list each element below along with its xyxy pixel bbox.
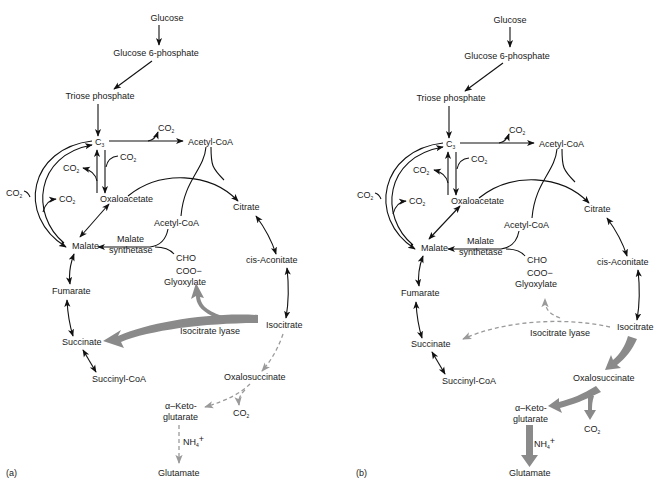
node-c3: C3 <box>446 139 456 150</box>
panel-b: Glucose Glucose 6-phosphate Triose phosp… <box>356 15 654 478</box>
dashed-arrow-co2 <box>239 390 245 405</box>
node-alpha-keto-1: α–Keto- <box>165 401 197 411</box>
node-coo: COO− <box>527 268 553 278</box>
node-co2: CO2 <box>509 125 526 136</box>
node-succinyl-coa: Succinyl-CoA <box>442 376 496 386</box>
arrow-citrate-cisaconitate <box>256 216 276 254</box>
arrow-co2-out-inner <box>393 201 406 214</box>
node-triose-phosphate: Triose phosphate <box>416 93 485 103</box>
arrow-g6p-triose <box>465 63 503 91</box>
co2-in-outer <box>375 193 381 199</box>
node-citrate: Citrate <box>233 202 260 212</box>
node-cis-aconitate: cis-Aconitate <box>246 255 298 265</box>
panel-label-b: (b) <box>356 468 367 478</box>
node-co2: CO2 <box>471 154 488 165</box>
node-succinyl-coa: Succinyl-CoA <box>92 374 146 384</box>
dashed-arrow-isocitrate-glyoxylate <box>545 299 560 318</box>
arrow-cisaconitate-isocitrate <box>637 270 639 320</box>
arrow-co2-out <box>434 170 448 183</box>
node-malate: Malate <box>421 243 448 253</box>
node-cho: CHO <box>527 255 547 265</box>
node-c3: C3 <box>95 137 105 148</box>
node-glyoxylate: Glyoxylate <box>515 279 557 289</box>
node-co2: CO2 <box>409 196 426 207</box>
node-alpha-keto-2: glutarate <box>513 414 548 424</box>
dashed-arrow-oxalosuccinate-aketo <box>205 384 250 407</box>
node-co2: CO2 <box>584 424 601 435</box>
arrow-citrate-cisaconitate <box>607 218 627 256</box>
node-glyoxylate: Glyoxylate <box>164 277 206 287</box>
node-isocitrate: Isocitrate <box>617 322 654 332</box>
line-acetylcoa-down <box>181 147 206 216</box>
label-isocitrate-lyase: Isocitrate lyase <box>180 326 240 336</box>
node-fumarate: Fumarate <box>401 288 440 298</box>
node-glucose: Glucose <box>493 15 526 25</box>
node-succinate: Succinate <box>411 339 451 349</box>
label-isocitrate-lyase: Isocitrate lyase <box>530 328 590 338</box>
node-citrate: Citrate <box>584 204 611 214</box>
node-fumarate: Fumarate <box>52 286 91 296</box>
arrow-malate-oaa <box>429 206 460 239</box>
arrow-co2-release <box>499 134 509 143</box>
arrow-malate-fumarate <box>70 254 75 284</box>
node-co2: CO2 <box>233 408 250 419</box>
co2-in-outer <box>24 191 30 197</box>
thick-arrow-isocitrate-oxalosuccinate <box>605 336 637 370</box>
node-co2: CO2 <box>59 194 76 205</box>
node-malate: Malate <box>72 241 99 251</box>
thick-arrow-isocitrate-glyoxylate <box>191 283 222 316</box>
dashed-arrow-isocitrate-oxalosuccinate <box>262 334 283 371</box>
node-acetyl-coa-mid: Acetyl-CoA <box>504 220 549 230</box>
node-acetyl-coa-top: Acetyl-CoA <box>188 137 233 147</box>
line-glyoxylate-merge <box>506 249 525 256</box>
arrow-cisaconitate-isocitrate <box>286 268 288 318</box>
node-glucose: Glucose <box>150 13 183 23</box>
node-glutamate: Glutamate <box>509 468 551 478</box>
node-co2: CO2 <box>413 165 430 176</box>
node-co2: CO2 <box>357 190 374 201</box>
arrow-g6p-triose <box>114 61 152 89</box>
node-acetyl-coa-top: Acetyl-CoA <box>539 139 584 149</box>
node-acetyl-coa-mid: Acetyl-CoA <box>154 218 199 228</box>
node-co2: CO2 <box>120 152 137 163</box>
line-acetylcoa-citrate <box>562 149 575 182</box>
node-cho: CHO <box>176 253 196 263</box>
glyoxylate-cycle-figure: Glucose Glucose 6-phosphate Triose phosp… <box>0 0 662 487</box>
co2-in-line <box>457 158 469 169</box>
arrow-succinate-succinylcoa <box>432 352 445 374</box>
line-acetylcoa-citrate <box>211 147 224 180</box>
node-oxalosuccinate: Oxalosuccinate <box>224 372 286 382</box>
node-co2: CO2 <box>6 188 23 199</box>
label-malate-synthetase-1: Malate <box>467 236 494 246</box>
node-co2: CO2 <box>63 163 80 174</box>
node-glucose-6-phosphate: Glucose 6-phosphate <box>113 48 199 58</box>
node-alpha-keto-2: glutarate <box>163 412 198 422</box>
node-succinate: Succinate <box>62 337 102 347</box>
panel-a: Glucose Glucose 6-phosphate Triose phosp… <box>6 13 303 478</box>
arrow-malate-fumarate <box>419 256 424 286</box>
node-oxalosuccinate: Oxalosuccinate <box>573 373 635 383</box>
arrow-fumarate-succinate <box>416 302 422 338</box>
arrow-malate-oaa <box>80 204 109 237</box>
node-co2: CO2 <box>158 123 175 134</box>
arrow-co2-out-inner <box>43 199 56 212</box>
node-isocitrate: Isocitrate <box>266 320 303 330</box>
panel-label-a: (a) <box>6 468 17 478</box>
node-triose-phosphate: Triose phosphate <box>65 91 134 101</box>
co2-in-line <box>106 156 118 167</box>
thick-arrow-oxalosuccinate-aketo <box>548 386 601 413</box>
node-nh4: NH4+ <box>534 436 555 450</box>
node-nh4: NH4+ <box>183 434 204 448</box>
node-glucose-6-phosphate: Glucose 6-phosphate <box>464 51 550 61</box>
line-acetylcoa-down <box>532 149 557 218</box>
arrow-fumarate-succinate <box>67 300 73 336</box>
node-cis-aconitate: cis-Aconitate <box>597 257 649 267</box>
node-oxaloacetate: Oxaloacetate <box>451 196 504 206</box>
node-alpha-keto-1: α–Keto- <box>515 403 547 413</box>
label-malate-synthetase-1: Malate <box>117 234 144 244</box>
arrow-co2-release <box>148 132 158 141</box>
node-coo: COO− <box>176 266 202 276</box>
node-oxaloacetate: Oxaloacetate <box>100 194 153 204</box>
line-glyoxylate-merge <box>155 247 174 254</box>
arrow-succinate-succinylcoa <box>83 350 96 372</box>
